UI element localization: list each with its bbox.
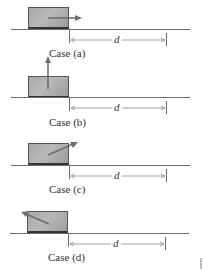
ground-line [11, 29, 190, 30]
distance-end-tick [165, 237, 166, 250]
distance-end-tick [166, 169, 167, 182]
block [28, 143, 69, 165]
distance-dimension [70, 108, 166, 109]
distance-start-tick [69, 98, 70, 111]
page-edge-mark [200, 258, 202, 269]
distance-label: d [112, 102, 122, 113]
case-caption: Case (b) [49, 116, 86, 128]
distance-start-tick [69, 166, 70, 179]
distance-dimension [70, 176, 166, 177]
distance-label: d [112, 170, 122, 181]
double-arrow-icon [69, 240, 165, 248]
distance-start-tick [68, 234, 69, 247]
distance-end-tick [166, 33, 167, 46]
case-a: d Case (a) [0, 0, 204, 65]
ground-line [11, 97, 190, 98]
double-arrow-icon [70, 172, 166, 180]
double-arrow-icon [70, 104, 166, 112]
distance-label: d [112, 34, 122, 45]
block [27, 211, 68, 233]
distance-end-tick [166, 101, 167, 114]
distance-label: d [111, 238, 121, 249]
case-caption: Case (c) [49, 183, 85, 195]
case-caption: Case (a) [49, 47, 85, 59]
case-caption: Case (d) [48, 251, 85, 263]
ground-line [10, 233, 189, 234]
distance-dimension [69, 244, 165, 245]
ground-line [11, 165, 190, 166]
block [28, 7, 69, 29]
block [28, 76, 69, 98]
